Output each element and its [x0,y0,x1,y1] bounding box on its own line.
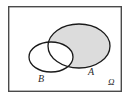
set-a-label: A [88,67,94,77]
set-b-label: B [38,74,44,84]
venn-diagram-figure: B A Ω [0,0,129,99]
sample-space-label: Ω [108,78,115,87]
